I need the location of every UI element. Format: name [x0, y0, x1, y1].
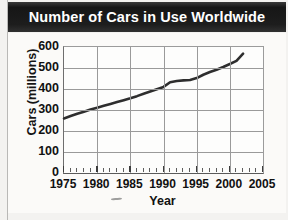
x-axis-minor-tick	[209, 168, 210, 172]
x-axis-minor-tick	[169, 168, 170, 172]
gridline-vertical	[230, 47, 231, 173]
x-axis-minor-tick	[255, 168, 256, 172]
x-axis-minor-tick	[103, 168, 104, 172]
x-axis-minor-tick	[176, 168, 177, 172]
x-axis-minor-tick	[83, 168, 84, 172]
x-axis-minor-tick	[156, 168, 157, 172]
y-tick-label: 200	[27, 124, 59, 137]
x-axis-major-tick	[196, 166, 197, 172]
x-axis-major-tick	[229, 166, 230, 172]
x-axis-minor-tick	[90, 168, 91, 172]
x-axis-major-tick	[96, 166, 97, 172]
chart-card: Cars (millions) 0100200300400500600 1975…	[8, 33, 286, 213]
x-axis-minor-tick	[242, 168, 243, 172]
x-tick-label: 2005	[242, 178, 282, 190]
x-axis-major-tick	[262, 166, 263, 172]
x-axis-minor-tick	[76, 168, 77, 172]
x-axis-minor-tick	[143, 168, 144, 172]
y-tick-label: 300	[27, 103, 59, 116]
x-axis-minor-tick	[149, 168, 150, 172]
x-axis-minor-tick	[202, 168, 203, 172]
chart-page: Number of Cars in Use Worldwide Cars (mi…	[0, 0, 288, 220]
x-axis-minor-tick	[70, 168, 71, 172]
gridline-vertical	[164, 47, 165, 173]
x-axis-minor-tick	[182, 168, 183, 172]
chart-title-banner: Number of Cars in Use Worldwide	[8, 2, 286, 32]
x-axis-minor-tick	[116, 168, 117, 172]
y-tick-label: 500	[27, 61, 59, 74]
y-tick-label: 100	[27, 145, 59, 158]
x-axis-major-tick	[163, 166, 164, 172]
gridline-vertical	[130, 47, 131, 173]
x-axis-minor-tick	[222, 168, 223, 172]
x-axis-major-tick	[63, 166, 64, 172]
x-axis-minor-tick	[216, 168, 217, 172]
x-axis-major-tick	[129, 166, 130, 172]
x-axis-title: Year	[63, 194, 262, 208]
x-axis-minor-tick	[123, 168, 124, 172]
x-axis-minor-tick	[189, 168, 190, 172]
gridline-vertical	[97, 47, 98, 173]
y-tick-label: 600	[27, 40, 59, 53]
x-axis-minor-tick	[136, 168, 137, 172]
x-axis-minor-tick	[109, 168, 110, 172]
plot-area	[63, 46, 264, 174]
x-axis-minor-tick	[249, 168, 250, 172]
y-tick-label: 400	[27, 82, 59, 95]
gridline-vertical	[197, 47, 198, 173]
page-title: Number of Cars in Use Worldwide	[29, 9, 265, 25]
data-line	[64, 54, 243, 119]
x-axis-minor-tick	[235, 168, 236, 172]
